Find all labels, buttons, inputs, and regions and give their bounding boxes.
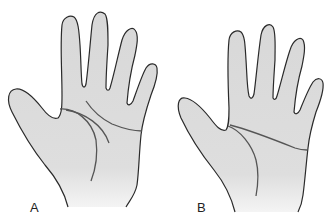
hand-b bbox=[178, 25, 323, 212]
hand-diagram bbox=[0, 0, 333, 224]
hand-b-outline bbox=[178, 25, 323, 212]
panel-label-a: A bbox=[30, 200, 39, 215]
panel-label-b: B bbox=[197, 200, 206, 215]
hand-a bbox=[9, 12, 158, 207]
hand-a-outline bbox=[9, 12, 158, 207]
